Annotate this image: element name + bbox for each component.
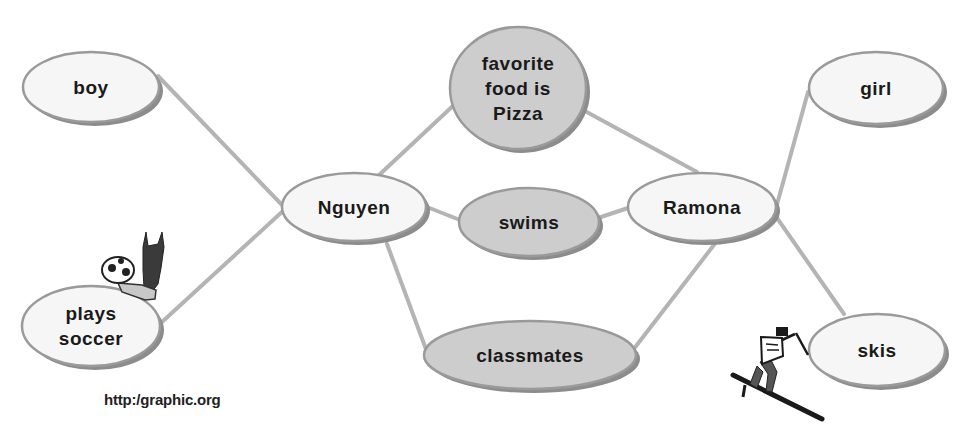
- edge-boy-nguyen: [158, 76, 283, 206]
- node-classmates-shape: [424, 321, 640, 393]
- node-nguyen-shape: [282, 173, 430, 245]
- edge-nguyen-food: [378, 104, 455, 176]
- node-favorite-food-shape: [450, 27, 590, 153]
- source-credit: http:/graphic.org: [104, 391, 221, 408]
- edge-food-ramona: [583, 110, 697, 172]
- edge-ramona-skis: [777, 218, 844, 314]
- node-swims-shape: [459, 188, 603, 260]
- node-girl-shape: [809, 52, 947, 128]
- node-ramona-shape: [628, 173, 780, 245]
- skier-icon: [733, 327, 822, 419]
- edge-soccer-nguyen: [162, 211, 283, 322]
- diagram-canvas: [0, 0, 971, 441]
- edge-swims-ramona: [598, 208, 628, 218]
- node-skis-shape: [809, 314, 949, 390]
- node-boy-shape: [23, 52, 163, 126]
- edge-ramona-girl: [776, 92, 808, 208]
- edge-nguyen-swims: [427, 207, 460, 220]
- double-bubble-map: boy plays soccer Nguyen favorite food is…: [0, 0, 971, 441]
- edge-classmates-ramona: [633, 241, 717, 350]
- edge-nguyen-classmates: [387, 244, 427, 352]
